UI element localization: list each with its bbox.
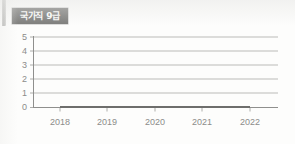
x-tick-label: 2019 bbox=[97, 117, 117, 127]
chart-title-label: 국가직 9급 bbox=[20, 12, 60, 21]
y-tick-label: 4 bbox=[22, 46, 27, 56]
y-tick-label: 3 bbox=[22, 60, 27, 70]
y-tick-label: 0 bbox=[22, 102, 27, 112]
chart-title-badge: 국가직 9급 bbox=[12, 8, 68, 24]
clipped-neighbor-element bbox=[2, 0, 6, 26]
gridlines bbox=[33, 37, 278, 93]
y-axis-ticks bbox=[30, 37, 33, 108]
y-tick-label: 2 bbox=[22, 74, 27, 84]
x-tick-label: 2020 bbox=[145, 117, 165, 127]
x-axis-ticks bbox=[60, 108, 250, 112]
y-axis-labels: 5 4 3 2 1 0 bbox=[22, 32, 27, 112]
x-tick-label: 2018 bbox=[50, 117, 70, 127]
y-tick-label: 5 bbox=[22, 32, 27, 42]
x-axis-labels: 2018 2019 2020 2021 2022 bbox=[50, 117, 260, 127]
line-chart: 5 4 3 2 1 0 2018 2019 2020 2021 2022 bbox=[0, 28, 295, 144]
chart-figure: 국가직 9급 bbox=[0, 0, 295, 144]
x-tick-label: 2021 bbox=[192, 117, 212, 127]
y-tick-label: 1 bbox=[22, 88, 27, 98]
chart-canvas: 5 4 3 2 1 0 2018 2019 2020 2021 2022 bbox=[0, 28, 295, 144]
x-tick-label: 2022 bbox=[240, 117, 260, 127]
